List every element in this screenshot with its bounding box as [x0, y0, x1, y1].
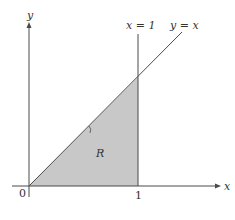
origin-label: 0: [19, 187, 26, 200]
region-label: R: [95, 147, 104, 160]
region-diagram: y x 0 1 x = 1 y = x R: [0, 0, 235, 220]
diagonal-line-label: y = x: [169, 19, 199, 32]
x-tick-label-1: 1: [135, 189, 142, 202]
vertical-line-label: x = 1: [126, 19, 155, 32]
y-axis-label: y: [26, 9, 34, 22]
x-axis-label: x: [224, 180, 231, 193]
y-axis-arrow-icon: [27, 22, 32, 28]
x-axis-arrow-icon: [215, 184, 221, 189]
